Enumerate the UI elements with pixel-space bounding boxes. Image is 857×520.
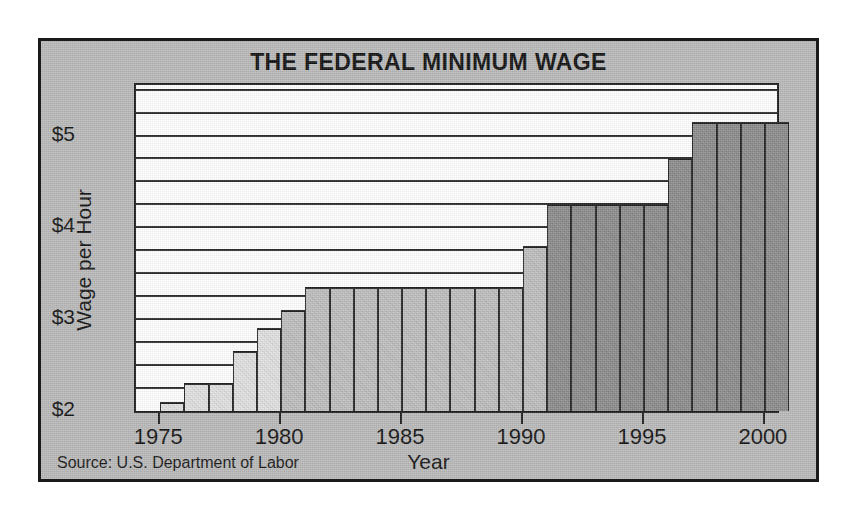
- x-tick-2000: 2000: [718, 424, 808, 450]
- x-tick-1980: 1980: [234, 424, 324, 450]
- chart-title: THE FEDERAL MINIMUM WAGE: [41, 49, 816, 76]
- x-tick-1985: 1985: [355, 424, 445, 450]
- bar-1999: [741, 122, 765, 411]
- x-tick-mark-1975: [158, 413, 160, 424]
- bar-1977: [209, 383, 233, 411]
- bar-1998: [717, 122, 741, 411]
- y-tick-usd-3: $3: [15, 305, 75, 329]
- bar-1980: [281, 310, 305, 411]
- bar-2000: [765, 122, 789, 411]
- gridline: [136, 89, 777, 91]
- bar-1981: [305, 287, 329, 411]
- bar-1975: [160, 402, 184, 411]
- bar-1978: [233, 351, 257, 411]
- chart-figure: THE FEDERAL MINIMUM WAGE Wage per Hour $…: [38, 38, 819, 482]
- bar-1991: [547, 204, 571, 411]
- x-tick-mark-1995: [642, 413, 644, 424]
- x-tick-mark-2000: [763, 413, 765, 424]
- bar-1987: [450, 287, 474, 411]
- bar-1993: [596, 204, 620, 411]
- y-tick-usd-2: $2: [15, 397, 75, 421]
- bar-1979: [257, 328, 281, 411]
- bar-1996: [668, 158, 692, 411]
- y-tick-usd-4: $4: [15, 213, 75, 237]
- bar-1990: [523, 246, 547, 411]
- x-tick-1975: 1975: [113, 424, 203, 450]
- x-tick-1990: 1990: [476, 424, 566, 450]
- bar-1982: [330, 287, 354, 411]
- bar-1995: [644, 204, 668, 411]
- source-note: Source: U.S. Department of Labor: [57, 454, 299, 472]
- bar-1989: [499, 287, 523, 411]
- bar-1985: [402, 287, 426, 411]
- bar-1997: [692, 122, 716, 411]
- bar-1992: [571, 204, 595, 411]
- x-tick-mark-1980: [279, 413, 281, 424]
- y-tick-usd-5: $5: [15, 122, 75, 146]
- bar-1994: [620, 204, 644, 411]
- bar-1988: [475, 287, 499, 411]
- x-tick-mark-1985: [400, 413, 402, 424]
- plot-area: [134, 83, 779, 413]
- bar-1976: [184, 383, 208, 411]
- x-tick-1995: 1995: [597, 424, 687, 450]
- gridline: [136, 112, 777, 114]
- x-tick-mark-1990: [521, 413, 523, 424]
- y-axis-label: Wage per Hour: [72, 155, 96, 365]
- bar-1986: [426, 287, 450, 411]
- bar-1984: [378, 287, 402, 411]
- gridline: [136, 135, 777, 137]
- bar-1983: [354, 287, 378, 411]
